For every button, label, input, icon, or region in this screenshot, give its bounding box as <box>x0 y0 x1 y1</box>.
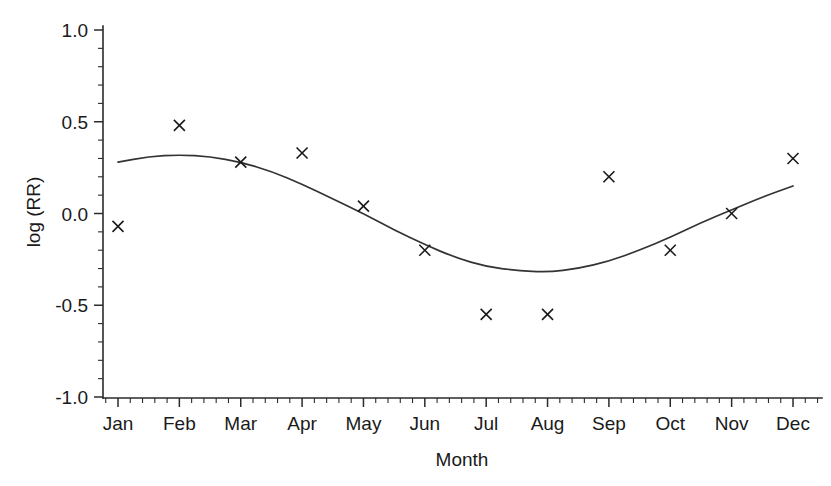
y-axis-title: log (RR) <box>23 177 44 248</box>
x-tick-label-jul: Jul <box>474 413 498 434</box>
x-tick-label-oct: Oct <box>655 413 685 434</box>
x-tick-label-nov: Nov <box>715 413 749 434</box>
x-tick-label-aug: Aug <box>531 413 565 434</box>
x-tick-label-jun: Jun <box>409 413 440 434</box>
data-point-oct <box>665 245 676 256</box>
x-tick-label-feb: Feb <box>163 413 196 434</box>
x-axis-ticks <box>106 398 818 407</box>
data-point-apr <box>297 147 308 158</box>
x-tick-label-mar: Mar <box>224 413 257 434</box>
data-point-sep <box>603 171 614 182</box>
data-point-may <box>358 201 369 212</box>
y-tick-label: 1.0 <box>62 20 88 41</box>
x-tick-label-may: May <box>346 413 382 434</box>
y-tick-label: 0.5 <box>62 112 88 133</box>
y-tick-label: -1.0 <box>55 387 88 408</box>
data-point-aug <box>542 309 553 320</box>
x-tick-label-sep: Sep <box>592 413 626 434</box>
x-axis-title: Month <box>436 449 489 470</box>
x-tick-label-apr: Apr <box>287 413 317 434</box>
y-axis-tick-labels: 1.00.50.0-0.5-1.0 <box>55 20 88 408</box>
y-tick-label: -0.5 <box>55 295 88 316</box>
x-tick-label-dec: Dec <box>776 413 810 434</box>
data-point-dec <box>788 153 799 164</box>
y-tick-label: 0.0 <box>62 204 88 225</box>
axis-lines <box>103 26 822 398</box>
x-tick-label-jan: Jan <box>103 413 134 434</box>
data-point-jul <box>481 309 492 320</box>
data-point-jan <box>113 221 124 232</box>
data-point-jun <box>419 245 430 256</box>
fitted-curve <box>118 155 793 271</box>
data-point-feb <box>174 120 185 131</box>
y-axis-ticks <box>94 30 103 397</box>
chart-figure: 1.00.50.0-0.5-1.0 JanFebMarAprMayJunJulA… <box>0 0 831 486</box>
data-point-markers <box>113 120 799 320</box>
chart-canvas: 1.00.50.0-0.5-1.0 JanFebMarAprMayJunJulA… <box>0 0 831 486</box>
x-axis-tick-labels: JanFebMarAprMayJunJulAugSepOctNovDec <box>103 413 810 434</box>
